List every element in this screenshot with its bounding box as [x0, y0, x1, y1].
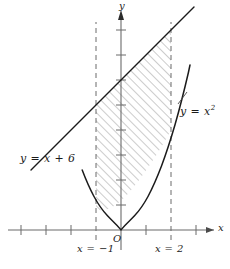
coordinate-plot: [0, 0, 230, 269]
x-axis-label: x: [218, 222, 224, 233]
shaded-region: [96, 30, 171, 210]
boundary-label-x-neg1: x = −1: [77, 243, 115, 254]
parabola-equation-label: y = x2: [180, 104, 216, 118]
math-figure: y = x + 6 y = x2 x = −1 x = 2 O x y: [0, 0, 230, 269]
origin-label: O: [113, 233, 121, 244]
boundary-label-x-2: x = 2: [155, 243, 184, 254]
y-axis-label: y: [119, 0, 125, 11]
parabola-equation-exponent: 2: [211, 104, 216, 112]
parabola-equation-base: y = x: [180, 105, 211, 118]
line-equation-label: y = x + 6: [20, 152, 75, 165]
